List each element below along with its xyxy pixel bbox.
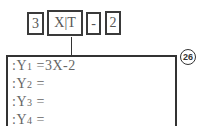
step-number-badge: 26 bbox=[180, 49, 196, 65]
y-expression: =3X-2 bbox=[33, 58, 76, 73]
key-minus[interactable]: - bbox=[86, 12, 101, 35]
key-x-t[interactable]: X|T bbox=[47, 10, 83, 36]
key-3[interactable]: 3 bbox=[27, 12, 44, 35]
y2-line: :Y2 = bbox=[12, 76, 45, 92]
y-expression: = bbox=[33, 94, 45, 109]
key-label: - bbox=[91, 16, 96, 32]
y1-line: :Y1 =3X-2 bbox=[12, 58, 76, 74]
y-expression: = bbox=[33, 112, 45, 126]
y-label: :Y bbox=[12, 76, 27, 91]
key-label: 2 bbox=[110, 15, 117, 31]
y-expression: = bbox=[33, 76, 45, 91]
y3-line: :Y3 = bbox=[12, 94, 45, 110]
y-label: :Y bbox=[12, 58, 27, 73]
key-2[interactable]: 2 bbox=[105, 11, 121, 35]
pointer-line bbox=[71, 37, 72, 56]
y-label: :Y bbox=[12, 94, 27, 109]
calculator-screen: :Y1 =3X-2 :Y2 = :Y3 = :Y4 = bbox=[6, 55, 177, 126]
key-label: X|T bbox=[54, 15, 75, 31]
y-label: :Y bbox=[12, 112, 27, 126]
key-label: 3 bbox=[32, 16, 39, 32]
y4-line: :Y4 = bbox=[12, 112, 45, 126]
